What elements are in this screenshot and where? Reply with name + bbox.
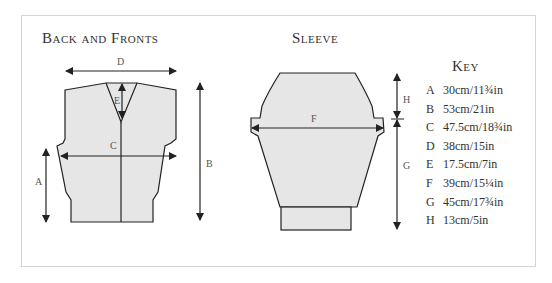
key-title: Key <box>452 58 479 75</box>
key-row-d: D38cm/15in <box>426 137 512 156</box>
label-d: D <box>117 56 124 67</box>
label-c: C <box>110 140 117 151</box>
key-row-h: H13cm/5in <box>426 211 512 230</box>
key-row-f: F39cm/15¼in <box>426 174 512 193</box>
label-b: B <box>206 158 213 169</box>
label-e: E <box>114 95 120 106</box>
measurement-key: A30cm/11¾in B53cm/21in C47.5cm/18¾in D38… <box>426 81 512 230</box>
label-a: A <box>35 176 43 187</box>
label-f: F <box>311 113 317 124</box>
label-h: H <box>403 94 410 105</box>
key-row-a: A30cm/11¾in <box>426 81 512 100</box>
label-g: G <box>403 160 410 171</box>
key-row-e: E17.5cm/7in <box>426 155 512 174</box>
key-row-b: B53cm/21in <box>426 100 512 119</box>
key-row-g: G45cm/17¾in <box>426 193 512 212</box>
sleeve-shape <box>251 73 384 230</box>
key-row-c: C47.5cm/18¾in <box>426 118 512 137</box>
